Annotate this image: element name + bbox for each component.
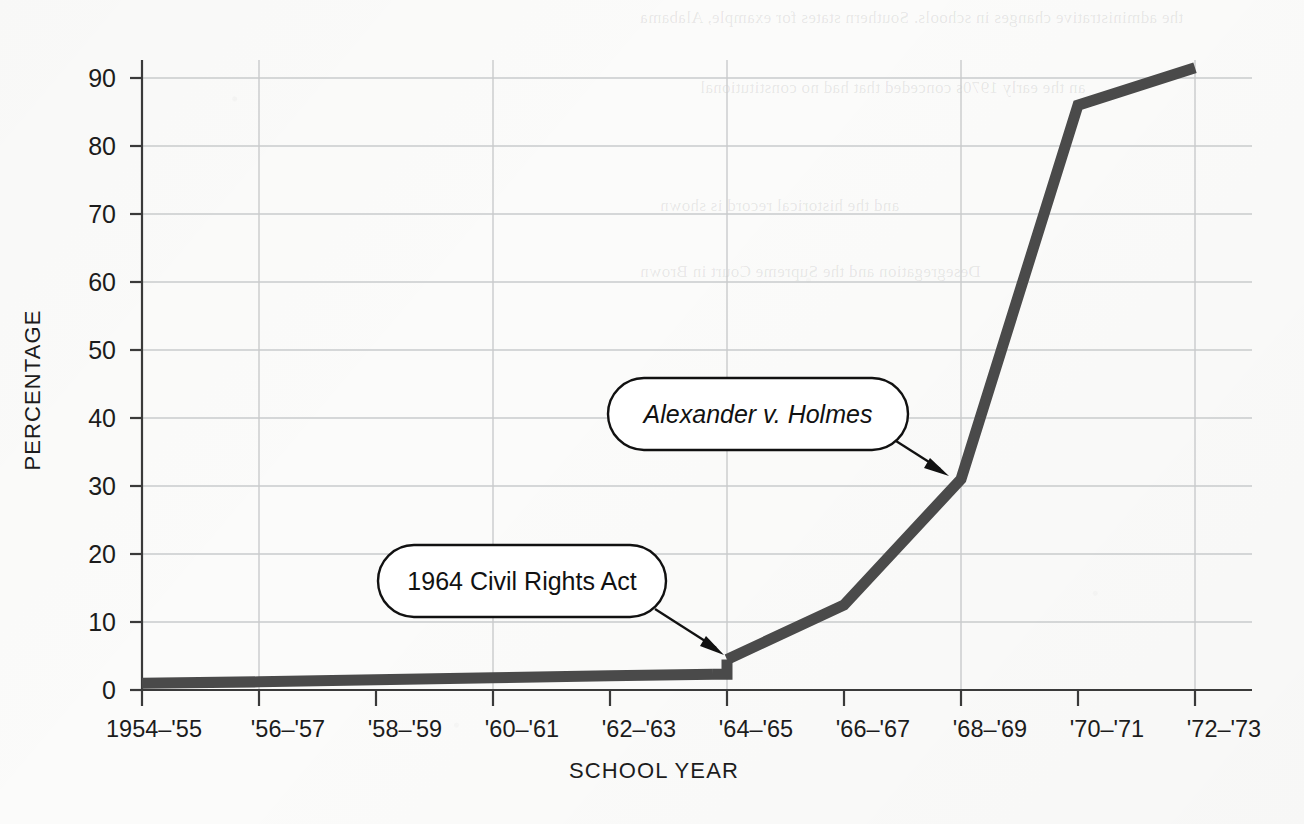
y-tick-label: 20 [88, 540, 116, 568]
y-tick-marks [130, 78, 142, 690]
callout-label: 1964 Civil Rights Act [407, 567, 636, 595]
gridlines [142, 78, 1252, 622]
y-tick-label: 0 [102, 676, 116, 704]
y-tick-label: 10 [88, 608, 116, 636]
callout-label: Alexander v. Holmes [642, 400, 873, 428]
y-tick-label: 70 [88, 200, 116, 228]
chart-svg: 0 10 20 30 40 50 60 70 80 90 1954–'55 '5… [0, 0, 1304, 824]
y-tick-label: 60 [88, 268, 116, 296]
chart-figure: the administrative changes in schools. S… [0, 0, 1304, 824]
x-tick-label: '68–'69 [953, 716, 1027, 742]
y-axis-title: PERCENTAGE [20, 310, 45, 471]
x-tick-label: 1954–'55 [106, 716, 202, 742]
annotation-alexander-v-holmes: Alexander v. Holmes [608, 378, 949, 476]
data-series-step [713, 659, 727, 674]
x-tick-label: '60–'61 [485, 716, 559, 742]
x-tick-labels: 1954–'55 '56–'57 '58–'59 '60–'61 '62–'63… [106, 716, 1261, 742]
x-tick-label: '62–'63 [602, 716, 676, 742]
x-tick-label: '72–'73 [1187, 716, 1261, 742]
y-tick-label: 80 [88, 132, 116, 160]
y-tick-label: 30 [88, 472, 116, 500]
x-tick-marks [142, 690, 1195, 706]
annotation-civil-rights-act: 1964 Civil Rights Act [378, 545, 724, 655]
y-tick-label: 90 [88, 64, 116, 92]
data-series-line [142, 674, 713, 683]
x-tick-label: '66–'67 [836, 716, 910, 742]
y-tick-label: 40 [88, 404, 116, 432]
y-tick-label: 50 [88, 336, 116, 364]
x-tick-label: '56–'57 [251, 716, 325, 742]
x-tick-label: '64–'65 [719, 716, 793, 742]
x-tick-label: '58–'59 [368, 716, 442, 742]
x-tick-label: '70–'71 [1070, 716, 1144, 742]
x-axis-title: SCHOOL YEAR [569, 758, 739, 783]
y-tick-labels: 0 10 20 30 40 50 60 70 80 90 [88, 64, 116, 704]
